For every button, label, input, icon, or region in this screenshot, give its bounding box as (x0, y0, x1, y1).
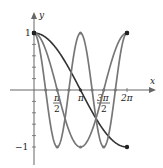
y-axis-label: y (38, 10, 45, 20)
data-point (67, 88, 70, 91)
x-tick-label-pi-over-2-den: 2 (54, 104, 60, 114)
marked-points (32, 31, 129, 149)
data-point (56, 145, 59, 148)
data-point (32, 31, 36, 35)
data-point (79, 88, 82, 91)
data-point (114, 88, 117, 91)
data-point (102, 88, 105, 91)
y-tick-label-neg1: −1 (15, 142, 28, 152)
data-point (125, 31, 129, 35)
data-point (125, 145, 129, 149)
data-point (44, 88, 47, 91)
data-point (79, 31, 82, 34)
cosine-chart: x y 1 −1 π 2 π 3π 2 2π (0, 0, 163, 168)
x-axis-label: x (150, 76, 155, 86)
data-point (56, 88, 59, 91)
y-axis-arrow-icon (31, 12, 37, 19)
data-point (91, 88, 94, 91)
x-tick-label-2pi: 2π (120, 93, 134, 103)
y-tick-label-1: 1 (25, 28, 31, 38)
x-axis-arrow-icon (149, 87, 156, 93)
data-point (79, 145, 82, 148)
data-point (102, 145, 105, 148)
x-tick-label-3pi-over-2-den: 2 (101, 104, 107, 114)
